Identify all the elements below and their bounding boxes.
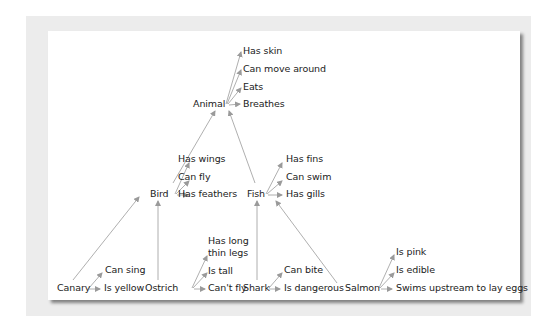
fish-property: Has gills	[286, 188, 325, 199]
salmon-property: Is pink	[396, 246, 426, 257]
bird-property: Has wings	[178, 153, 225, 164]
ostrich-property: thin legs	[208, 247, 248, 258]
shark-property: Can bite	[284, 264, 323, 275]
salmon-property: Swims upstream to lay eggs	[396, 282, 528, 293]
canary-property: Can sing	[105, 264, 145, 275]
fish-property: Has fins	[286, 153, 323, 164]
animal-property: Breathes	[243, 98, 285, 109]
node-canary: Canary	[57, 282, 90, 293]
ostrich-property: Is tall	[208, 265, 233, 276]
ostrich-property: Has long	[208, 235, 249, 246]
canary-property: Is yellow	[104, 282, 144, 293]
salmon-property: Is edible	[396, 264, 435, 275]
node-salmon: Salmon	[345, 282, 380, 293]
animal-property: Can move around	[243, 63, 326, 74]
bird-property: Has feathers	[178, 188, 237, 199]
animal-property: Has skin	[243, 45, 282, 56]
shark-property: Is dangerous	[284, 282, 344, 293]
node-animal: Animal	[193, 98, 225, 109]
bird-property: Can fly	[178, 171, 210, 182]
fish-property: Can swim	[286, 171, 331, 182]
ostrich-property: Can't fly	[208, 282, 247, 293]
node-fish: Fish	[247, 188, 265, 199]
animal-property: Eats	[243, 81, 263, 92]
node-shark: Shark	[243, 282, 270, 293]
node-bird: Bird	[150, 188, 169, 199]
node-ostrich: Ostrich	[145, 282, 178, 293]
